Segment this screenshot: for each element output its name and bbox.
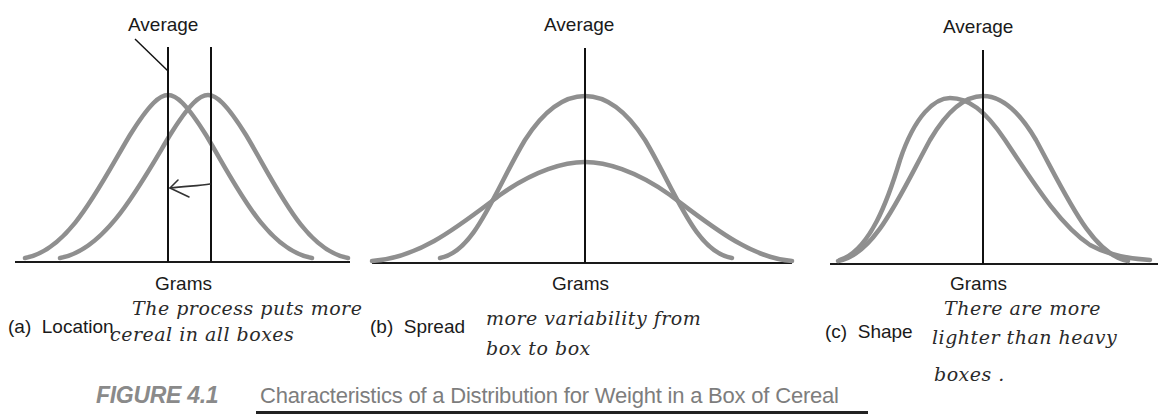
panel-c-caption-letter: (c)	[825, 321, 847, 342]
panel-b-caption: (b) Spread	[370, 317, 465, 336]
panel-c-caption-name: Shape	[858, 321, 913, 342]
panel-b-handwritten-note-line-2: box to box	[486, 336, 591, 360]
panel-a-handwritten-note-line-1: The process puts more	[132, 296, 362, 320]
panel-a-caption-letter: (a)	[8, 316, 31, 337]
panel-c-x-axis-label: Grams	[950, 274, 1007, 293]
figure-title: Characteristics of a Distribution for We…	[260, 383, 839, 409]
panel-c-curve-skewed	[840, 98, 1150, 260]
panel-c-handwritten-note-line-2: lighter than heavy	[932, 325, 1117, 349]
panel-c-handwritten-note-line-1: There are more	[944, 296, 1101, 320]
panel-a-caption-name: Location	[42, 316, 114, 337]
panel-b-caption-letter: (b)	[370, 316, 393, 337]
panel-b-curve-wide	[372, 162, 792, 261]
figure-number: FIGURE 4.1	[96, 382, 218, 409]
panel-b-handwritten-note-line-1: more variability from	[486, 306, 701, 330]
panel-c-average-label: Average	[943, 17, 1013, 36]
panel-a-x-axis-label: Grams	[155, 274, 212, 293]
panel-b-x-axis-label: Grams	[552, 274, 609, 293]
panel-a-plot	[15, 39, 350, 262]
panel-b-plot	[372, 48, 792, 263]
panel-a-leader-line	[135, 39, 168, 71]
panel-a-average-label: Average	[128, 15, 198, 34]
panel-b-caption-name: Spread	[404, 316, 465, 337]
panel-b-average-label: Average	[544, 15, 614, 34]
arrow-left-icon	[170, 180, 210, 197]
panel-a-handwritten-note-line-2: cereal in all boxes	[110, 322, 294, 346]
panel-c-plot	[830, 50, 1158, 264]
panel-c-handwritten-note-line-3: boxes .	[934, 362, 1005, 386]
panel-c-caption: (c) Shape	[825, 322, 913, 341]
caption-rule-divider	[256, 411, 868, 414]
panel-a-caption: (a) Location	[8, 317, 114, 336]
